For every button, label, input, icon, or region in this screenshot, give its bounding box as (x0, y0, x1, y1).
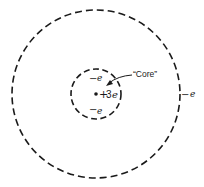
nucleus-dot (94, 92, 98, 96)
core-label: “Core” (133, 69, 157, 79)
inner-electron-bottom-e: e (97, 106, 102, 116)
atom-diagram: + 3 e − e − e − e “Core” (0, 0, 204, 187)
outer-electron-minus: − (181, 89, 189, 100)
outer-electron-e: e (190, 89, 195, 99)
nucleus-charge-unit: e (112, 89, 118, 100)
inner-electron-top-e: e (97, 73, 102, 83)
